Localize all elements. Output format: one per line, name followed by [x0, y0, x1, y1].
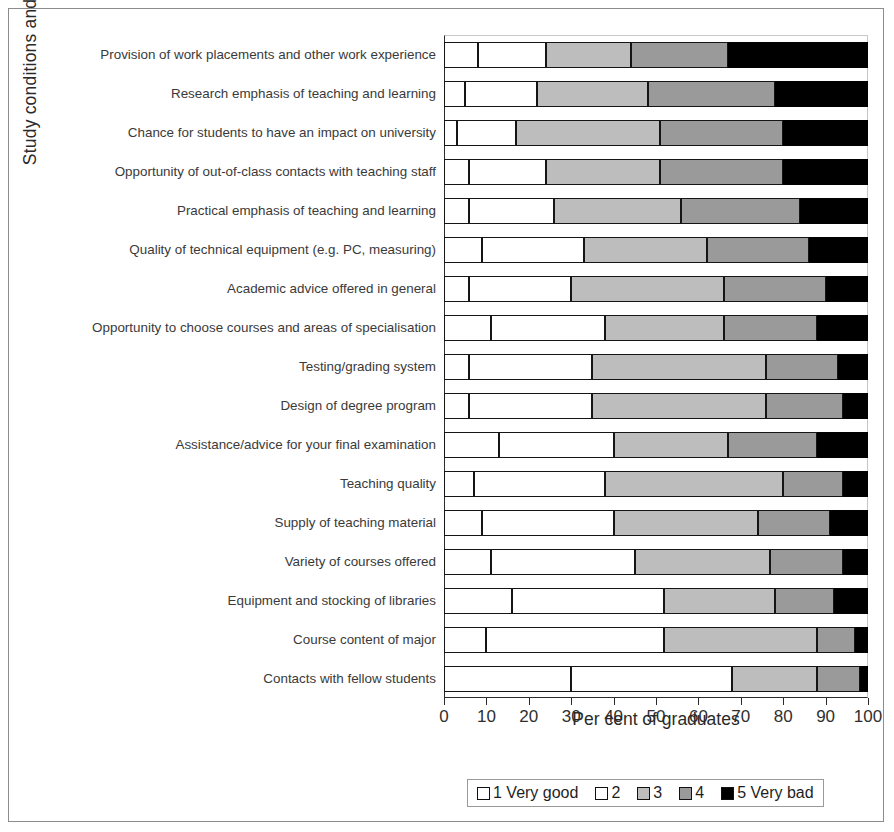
- bar-segment: [537, 81, 647, 107]
- category-label: Teaching quality: [14, 471, 444, 497]
- bar-row: Supply of teaching material: [444, 510, 868, 536]
- bar-segment: [444, 42, 478, 68]
- bar-segment: [478, 42, 546, 68]
- x-tick-mark: [698, 698, 699, 705]
- chart-legend: 1 Very good2345 Very bad: [467, 779, 824, 807]
- bar-segment: [817, 315, 868, 341]
- legend-item[interactable]: 3: [637, 784, 662, 802]
- x-tick-mark: [444, 698, 445, 705]
- legend-item[interactable]: 2: [595, 784, 620, 802]
- bar-segment: [631, 42, 729, 68]
- x-tick-mark: [529, 698, 530, 705]
- bar-segment: [474, 471, 605, 497]
- bar-segment: [800, 198, 868, 224]
- bar-segment: [444, 666, 571, 692]
- bar-segment: [546, 42, 631, 68]
- category-label: Quality of technical equipment (e.g. PC,…: [14, 237, 444, 263]
- bar-segment: [499, 432, 613, 458]
- legend-swatch-icon: [595, 787, 608, 800]
- stacked-bar: [444, 81, 868, 107]
- bar-segment: [554, 198, 681, 224]
- category-label: Variety of courses offered: [14, 549, 444, 575]
- bar-segment: [707, 237, 809, 263]
- legend-item[interactable]: 5 Very bad: [721, 784, 814, 802]
- x-tick-mark: [614, 698, 615, 705]
- x-tick-mark: [571, 698, 572, 705]
- bar-segment: [444, 471, 474, 497]
- bar-segment: [766, 354, 838, 380]
- bar-segment: [817, 627, 855, 653]
- bar-segment: [457, 120, 516, 146]
- stacked-bar: [444, 393, 868, 419]
- bar-segment: [491, 549, 635, 575]
- bar-segment: [843, 471, 868, 497]
- bar-segment: [469, 198, 554, 224]
- bar-segment: [444, 432, 499, 458]
- bar-segment: [605, 315, 724, 341]
- bar-segment: [491, 315, 605, 341]
- stacked-bar: [444, 471, 868, 497]
- bar-segment: [444, 393, 469, 419]
- category-label: Academic advice offered in general: [14, 276, 444, 302]
- category-label: Opportunity to choose courses and areas …: [14, 315, 444, 341]
- legend-item[interactable]: 1 Very good: [477, 784, 578, 802]
- bar-segment: [775, 81, 868, 107]
- legend-swatch-icon: [721, 787, 734, 800]
- category-label: Research emphasis of teaching and learni…: [14, 81, 444, 107]
- category-label: Equipment and stocking of libraries: [14, 588, 444, 614]
- legend-swatch-icon: [637, 787, 650, 800]
- stacked-bar: [444, 549, 868, 575]
- legend-label: 1 Very good: [493, 784, 578, 802]
- legend-label: 5 Very bad: [737, 784, 814, 802]
- bar-segment: [681, 198, 800, 224]
- bar-segment: [758, 510, 830, 536]
- bar-segment: [766, 393, 842, 419]
- bar-segment: [783, 471, 842, 497]
- stacked-bar: [444, 588, 868, 614]
- bar-segment: [614, 432, 728, 458]
- bar-segment: [444, 159, 469, 185]
- x-tick-mark: [783, 698, 784, 705]
- bar-segment: [724, 315, 817, 341]
- bar-segment: [834, 588, 868, 614]
- bar-segment: [512, 588, 665, 614]
- bar-segment: [444, 549, 491, 575]
- bar-segment: [770, 549, 842, 575]
- stacked-bar: [444, 432, 868, 458]
- bar-row: Chance for students to have an impact on…: [444, 120, 868, 146]
- stacked-bar: [444, 159, 868, 185]
- x-tick-mark: [741, 698, 742, 705]
- bar-segment: [469, 354, 592, 380]
- bar-segment: [826, 276, 868, 302]
- category-label: Testing/grading system: [14, 354, 444, 380]
- bar-segment: [571, 666, 732, 692]
- bar-segment: [469, 276, 571, 302]
- bar-segment: [838, 354, 868, 380]
- stacked-bar: [444, 42, 868, 68]
- bar-row: Course content of major: [444, 627, 868, 653]
- bar-segment: [444, 276, 469, 302]
- bar-segment: [469, 393, 592, 419]
- bar-segment: [664, 588, 774, 614]
- bar-row: Teaching quality: [444, 471, 868, 497]
- bar-segment: [444, 627, 486, 653]
- category-label: Provision of work placements and other w…: [14, 42, 444, 68]
- bar-segment: [648, 81, 775, 107]
- legend-item[interactable]: 4: [679, 784, 704, 802]
- bar-segment: [444, 354, 469, 380]
- stacked-bar: [444, 354, 868, 380]
- bar-segment: [860, 666, 868, 692]
- bar-row: Contacts with fellow students: [444, 666, 868, 692]
- bar-segment: [855, 627, 868, 653]
- bar-segment: [775, 588, 834, 614]
- legend-label: 4: [695, 784, 704, 802]
- bar-segment: [482, 237, 584, 263]
- bar-segment: [724, 276, 826, 302]
- bar-row: Practical emphasis of teaching and learn…: [444, 198, 868, 224]
- bar-segment: [843, 549, 868, 575]
- bar-segment: [444, 81, 465, 107]
- legend-swatch-icon: [679, 787, 692, 800]
- bar-row: Research emphasis of teaching and learni…: [444, 81, 868, 107]
- bar-segment: [444, 588, 512, 614]
- stacked-bar: [444, 120, 868, 146]
